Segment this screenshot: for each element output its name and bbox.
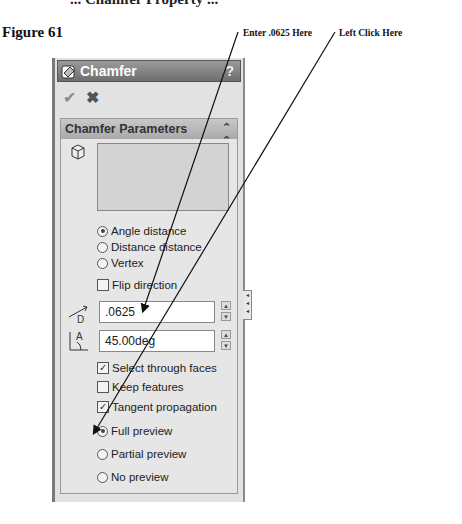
arrow-to-full-preview [94,32,335,433]
callout-arrows [0,0,462,524]
arrow-to-distance-field [143,32,238,311]
